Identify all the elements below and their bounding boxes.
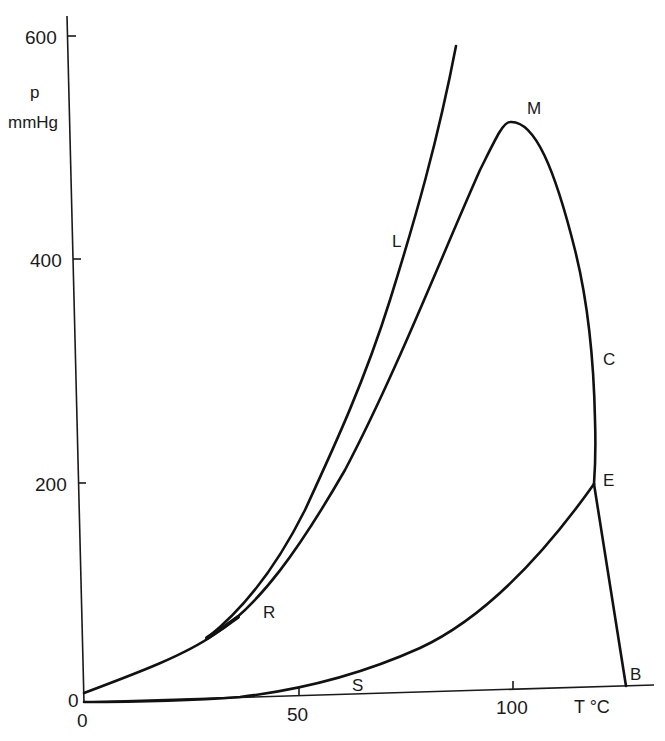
label-m: M (527, 100, 541, 117)
label-c: C (603, 351, 615, 368)
y-axis-title-symbol: p (30, 84, 39, 101)
y-axis (67, 16, 84, 702)
label-b: B (630, 666, 641, 683)
curve-e-b (594, 484, 626, 686)
x-axis-title: T °C (574, 698, 610, 716)
y-tick-label-200: 200 (35, 475, 67, 494)
label-r: R (263, 604, 275, 621)
x-tick-label-0: 0 (77, 711, 88, 730)
y-tick-label-400: 400 (30, 251, 62, 270)
label-s: S (352, 677, 363, 694)
x-tick-label-100: 100 (496, 698, 528, 717)
y-tick-label-0: 0 (68, 691, 79, 710)
curve-merge-near-r (207, 617, 238, 638)
y-axis-title-unit: mmHg (8, 114, 58, 131)
phase-diagram-plot (0, 0, 665, 741)
label-l: L (392, 233, 401, 250)
curve-l (207, 46, 456, 638)
y-tick-label-600: 600 (25, 28, 57, 47)
curve-r-m-c-e (84, 122, 595, 693)
x-tick-label-50: 50 (287, 705, 308, 724)
curve-s (84, 484, 594, 702)
label-e: E (603, 472, 614, 489)
